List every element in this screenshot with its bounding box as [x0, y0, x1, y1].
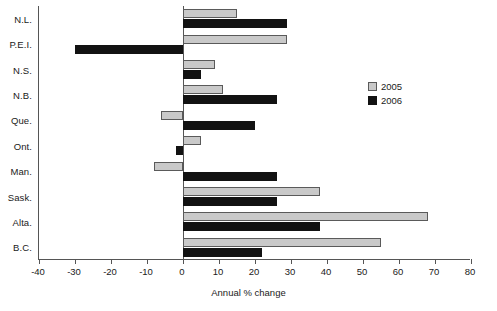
x-axis-tick-label-3: -10	[139, 266, 153, 277]
bar-pei-2006	[75, 45, 183, 54]
category-label-nl: N.L.	[14, 13, 32, 24]
legend-swatch-2005-icon	[368, 82, 377, 91]
category-label-pei: P.E.I.	[9, 39, 32, 50]
category-axis-labels: N.L.P.E.I.N.S.N.B.Que.Ont.Man.Sask.Alta.…	[0, 6, 36, 260]
bar-bc-2005	[183, 238, 381, 247]
x-axis-tick-label-4: 0	[179, 266, 184, 277]
bar-chart: N.L.P.E.I.N.S.N.B.Que.Ont.Man.Sask.Alta.…	[0, 0, 497, 311]
bar-alta-2005	[183, 212, 428, 221]
bar-sask-2006	[183, 197, 277, 206]
x-axis-tick-label-11: 70	[429, 266, 440, 277]
x-axis-tick-0	[39, 259, 40, 264]
category-label-sask: Sask.	[8, 191, 32, 202]
x-axis-tick-label-7: 30	[285, 266, 296, 277]
x-axis-tick-label-2: -20	[103, 266, 117, 277]
bar-que-2005	[161, 111, 183, 120]
x-axis-tick-label-5: 10	[213, 266, 224, 277]
legend-swatch-2006-icon	[368, 96, 377, 105]
x-axis-tick-1	[75, 259, 76, 264]
x-axis-tick-12	[471, 259, 472, 264]
bar-bc-2006	[183, 248, 262, 257]
category-label-bc: B.C.	[13, 242, 32, 253]
x-axis-tick-11	[435, 259, 436, 264]
x-axis-tick-label-10: 60	[393, 266, 404, 277]
category-label-ns: N.S.	[13, 64, 32, 75]
x-axis-tick-label-9: 50	[357, 266, 368, 277]
x-axis-tick-label-0: -40	[31, 266, 45, 277]
bar-ont-2006	[176, 146, 183, 155]
bar-nl-2005	[183, 9, 237, 18]
x-axis-tick-5	[219, 259, 220, 264]
category-label-ont: Ont.	[14, 140, 32, 151]
x-axis-title: Annual % change	[0, 287, 497, 298]
x-axis-tick-labels: -40-30-20-1001020304050607080	[38, 266, 470, 280]
x-axis-tick-2	[111, 259, 112, 264]
bar-pei-2005	[183, 35, 287, 44]
x-axis-tick-8	[327, 259, 328, 264]
category-label-nb: N.B.	[13, 89, 32, 100]
bar-man-2005	[154, 162, 183, 171]
legend-entry-2005: 2005	[368, 80, 402, 93]
bar-ns-2006	[183, 70, 201, 79]
x-axis-tick-label-6: 20	[249, 266, 260, 277]
bar-nb-2006	[183, 95, 277, 104]
plot-area	[38, 6, 470, 260]
bar-ns-2005	[183, 60, 215, 69]
x-axis-tick-7	[291, 259, 292, 264]
bar-nb-2005	[183, 85, 223, 94]
bar-ont-2005	[183, 136, 201, 145]
x-axis-tick-10	[399, 259, 400, 264]
chart-legend: 2005 2006	[368, 80, 402, 108]
bar-nl-2006	[183, 19, 287, 28]
legend-entry-2006: 2006	[368, 94, 402, 107]
category-label-que: Que.	[11, 115, 32, 126]
x-axis-tick-label-1: -30	[67, 266, 81, 277]
category-label-alta: Alta.	[12, 216, 32, 227]
bar-que-2006	[183, 121, 255, 130]
x-axis-tick-label-12: 80	[465, 266, 476, 277]
category-label-man: Man.	[10, 166, 32, 177]
x-axis-tick-3	[147, 259, 148, 264]
bar-alta-2006	[183, 222, 320, 231]
bar-man-2006	[183, 172, 277, 181]
x-axis-tick-4	[183, 259, 184, 264]
x-axis-tick-9	[363, 259, 364, 264]
bar-sask-2005	[183, 187, 320, 196]
legend-label-2005: 2005	[381, 82, 402, 92]
legend-label-2006: 2006	[381, 96, 402, 106]
x-axis-tick-label-8: 40	[321, 266, 332, 277]
x-axis-tick-6	[255, 259, 256, 264]
